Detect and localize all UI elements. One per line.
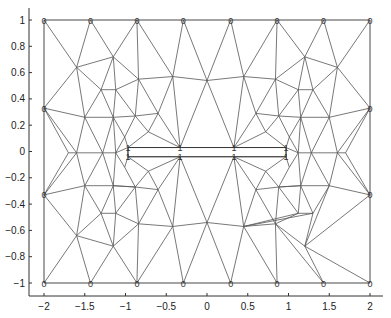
mesh-edge	[158, 77, 173, 114]
mesh-edge	[305, 195, 370, 246]
y-tick-label: 0	[19, 146, 25, 157]
x-tick-label: 2	[367, 301, 373, 312]
mesh-edge	[85, 153, 103, 186]
mesh-edge	[207, 77, 244, 81]
mesh-edge	[313, 90, 329, 118]
mesh-edge	[135, 116, 148, 132]
mesh-edge	[244, 77, 256, 114]
mesh-edges	[44, 20, 370, 283]
mesh-edge	[137, 224, 139, 283]
mesh-edge	[256, 113, 266, 131]
mesh-edge	[135, 187, 158, 190]
mesh-edge	[113, 57, 138, 79]
mesh-edge	[279, 90, 299, 116]
mesh-edge	[101, 186, 113, 214]
mesh-edge	[275, 79, 298, 90]
y-tick-label: −0.8	[5, 251, 25, 262]
mesh-edge	[207, 223, 244, 227]
mesh-edge	[183, 20, 207, 80]
mesh-edge	[337, 67, 370, 108]
mesh-edge	[275, 224, 323, 283]
mesh-edge	[116, 137, 125, 153]
mesh-edge	[305, 186, 329, 246]
boundary-labels: 0000000000000000000011111111	[42, 16, 373, 289]
mesh-edge	[113, 186, 115, 214]
mesh-edge	[77, 20, 91, 67]
mesh-edge	[137, 20, 173, 77]
mesh-edge	[275, 224, 277, 283]
mesh-edge	[234, 157, 244, 227]
mesh-edge	[207, 80, 234, 147]
mesh-edge	[158, 190, 173, 227]
mesh-edge	[139, 190, 159, 224]
mesh-edge	[301, 153, 312, 186]
boundary-label: 1	[125, 152, 130, 162]
mesh-edge	[173, 77, 180, 148]
mesh-edge	[279, 186, 301, 187]
y-tick-label: −0.4	[5, 199, 25, 210]
boundary-label: 0	[321, 16, 326, 26]
mesh-edge	[183, 223, 207, 283]
mesh-edge	[44, 195, 77, 236]
mesh-edge	[298, 117, 300, 153]
mesh-edge	[279, 187, 299, 213]
mesh-edge	[116, 79, 139, 90]
mesh-edge	[289, 137, 298, 153]
axes: −2−1.5−1−0.500.511.5210.80.60.40.20−0.2−…	[5, 8, 383, 312]
mesh-edge	[311, 117, 329, 153]
mesh-edge	[311, 153, 329, 186]
mesh-edge	[337, 20, 370, 67]
mesh-edge	[298, 153, 300, 186]
mesh-edge	[128, 157, 148, 171]
mesh-edge	[313, 186, 329, 214]
mesh-edge	[113, 224, 138, 246]
mesh-edge	[116, 213, 139, 224]
mesh-edge	[301, 186, 313, 214]
mesh-edge	[77, 186, 85, 236]
mesh-edge	[173, 226, 184, 283]
boundary-label: 0	[181, 16, 186, 26]
mesh-edge	[173, 77, 207, 81]
mesh-edge	[207, 223, 231, 283]
mesh-edge	[337, 108, 370, 153]
mesh-edge	[256, 171, 266, 189]
mesh-edge	[298, 186, 300, 214]
y-tick-label: 0.6	[11, 67, 25, 78]
mesh-edge	[113, 153, 115, 186]
mesh-edge	[139, 224, 173, 227]
boundary-label: 0	[228, 16, 233, 26]
mesh-edge	[275, 79, 278, 116]
mesh-edge	[266, 116, 279, 132]
mesh-edge	[135, 171, 148, 187]
mesh-edge	[137, 226, 173, 283]
mesh-edge	[305, 57, 338, 68]
mesh-edge	[256, 187, 279, 190]
y-tick-label: 1	[19, 15, 25, 26]
mesh-edge	[305, 57, 313, 90]
mesh-edge	[148, 171, 158, 189]
mesh-edge	[44, 108, 77, 153]
mesh-edge	[113, 246, 137, 283]
mesh-edge	[277, 20, 305, 57]
mesh-edge	[256, 79, 276, 113]
slot-boundary	[128, 148, 286, 157]
mesh-edge	[244, 226, 277, 283]
x-tick-label: 1	[286, 301, 292, 312]
mesh-edge	[301, 90, 313, 118]
mesh-edge	[244, 190, 256, 227]
mesh-edge	[289, 117, 300, 137]
mesh-edge	[113, 20, 137, 57]
mesh-plot: 0000000000000000000011111111 −2−1.5−1−0.…	[0, 0, 391, 318]
mesh-edge	[207, 157, 234, 223]
mesh-edge	[148, 113, 158, 131]
mesh-edge	[128, 132, 148, 148]
boundary-label: 0	[42, 104, 47, 114]
mesh-edge	[289, 153, 298, 167]
mesh-edge	[116, 187, 136, 213]
mesh-edge	[180, 157, 207, 223]
boundary-label: 1	[284, 152, 289, 162]
boundary-label: 0	[275, 16, 280, 26]
mesh-edge	[44, 236, 77, 283]
boundary-label: 0	[42, 16, 47, 26]
boundary-label: 0	[42, 190, 47, 200]
